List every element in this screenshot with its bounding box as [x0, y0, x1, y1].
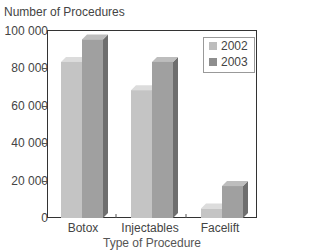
- legend-item-2003: 2003: [204, 54, 254, 70]
- x-label-injectables: Injectables: [121, 221, 178, 235]
- legend-swatch-2003: [209, 58, 217, 66]
- x-label-facelift: Facelift: [201, 221, 240, 235]
- bar-facelift-2003: [222, 181, 248, 218]
- x-axis-title: Type of Procedure: [103, 236, 201, 250]
- bar-botox-2003: [82, 34, 108, 218]
- legend-swatch-2002: [209, 42, 217, 50]
- legend-item-2002: 2002: [204, 38, 254, 54]
- legend-label-2003: 2003: [221, 55, 248, 69]
- legend-label-2002: 2002: [221, 39, 248, 53]
- bar-injectables-2003: [152, 57, 178, 218]
- x-label-botox: Botox: [68, 221, 99, 235]
- legend: 2002 2003: [203, 37, 255, 73]
